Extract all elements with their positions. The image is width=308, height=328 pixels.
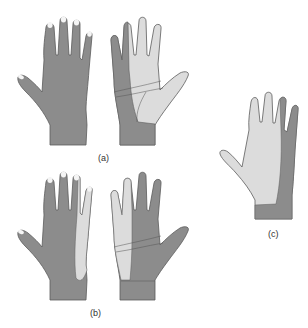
panel-c-label: (c) <box>268 229 279 239</box>
hand-illustrations <box>0 0 308 328</box>
panel-b-label: (b) <box>90 308 101 318</box>
nail <box>47 22 52 28</box>
hand-c-palmar <box>220 92 298 219</box>
hand-a-palmar <box>111 17 188 145</box>
panel-a-label: (a) <box>98 153 109 163</box>
hand-a-dorsal <box>17 17 92 146</box>
hand-b-palmar <box>111 172 188 300</box>
hand-b-dorsal <box>17 172 92 301</box>
